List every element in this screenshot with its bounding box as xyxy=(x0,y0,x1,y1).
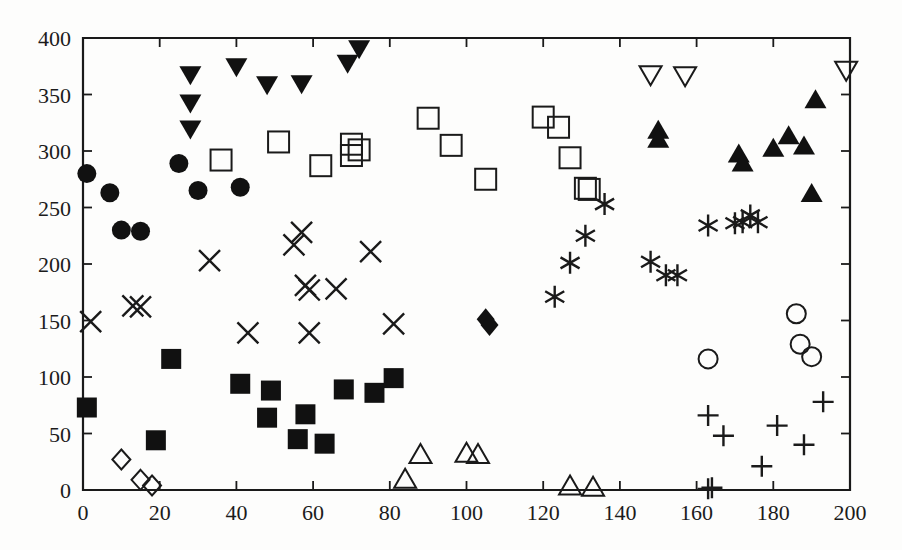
series-open-square xyxy=(211,107,600,200)
data-point-filled-square xyxy=(230,374,250,394)
data-point-asterisk xyxy=(545,286,564,308)
data-point-filled-square xyxy=(384,368,404,388)
data-point-open-down-triangle xyxy=(835,62,857,81)
y-axis-tick-label: 300 xyxy=(38,139,71,164)
data-markers-group xyxy=(77,40,857,499)
data-point-x xyxy=(291,222,312,243)
data-point-open-up-triangle xyxy=(582,477,604,496)
data-point-open-circle xyxy=(787,304,806,323)
data-point-open-square xyxy=(349,139,370,160)
series-open-circle xyxy=(699,304,822,368)
data-point-open-square xyxy=(418,108,439,129)
data-point-open-square xyxy=(268,131,289,152)
x-axis-tick-label: 180 xyxy=(757,500,790,525)
series-cross-x xyxy=(80,222,404,344)
data-point-filled-circle xyxy=(131,222,150,241)
series-asterisk xyxy=(545,193,767,308)
y-axis-tick-label: 50 xyxy=(49,422,71,447)
data-point-filled-square xyxy=(334,379,354,399)
data-point-filled-square xyxy=(295,404,315,424)
data-point-filled-down-triangle xyxy=(291,75,313,94)
data-point-open-up-triangle xyxy=(559,476,581,495)
data-point-asterisk xyxy=(668,264,687,286)
x-axis-tick-label: 200 xyxy=(834,500,867,525)
data-point-plus xyxy=(767,415,788,436)
y-axis-tick-label: 250 xyxy=(38,196,71,221)
data-point-x xyxy=(326,278,347,299)
plot-canvas: 0501001502002503003504000204060801001201… xyxy=(0,0,902,550)
series-filled-up-triangle xyxy=(647,89,826,202)
x-axis-tick-label: 160 xyxy=(680,500,713,525)
data-point-filled-up-triangle xyxy=(804,89,826,108)
data-point-filled-square xyxy=(161,349,181,369)
data-point-filled-up-triangle xyxy=(793,135,815,154)
data-point-filled-circle xyxy=(100,183,119,202)
data-point-plus xyxy=(751,456,772,477)
data-point-open-circle xyxy=(699,349,718,368)
y-axis-tick-label: 400 xyxy=(38,26,71,51)
data-point-plus xyxy=(793,434,814,455)
x-axis-tick-label: 80 xyxy=(379,500,401,525)
data-point-filled-square xyxy=(315,434,335,454)
data-point-filled-down-triangle xyxy=(337,55,359,74)
data-point-asterisk xyxy=(595,193,614,215)
data-point-plus xyxy=(813,391,834,412)
data-point-open-circle xyxy=(802,347,821,366)
x-axis-tick-label: 100 xyxy=(450,500,483,525)
data-point-open-up-triangle xyxy=(409,444,431,463)
data-point-open-circle xyxy=(791,335,810,354)
data-point-filled-square xyxy=(364,383,384,403)
data-point-filled-down-triangle xyxy=(179,66,201,85)
data-point-open-square xyxy=(560,147,581,168)
y-axis-tick-label: 100 xyxy=(38,365,71,390)
series-filled-down-triangle xyxy=(179,40,370,139)
data-point-x xyxy=(283,234,304,255)
series-open-down-triangle xyxy=(640,62,858,87)
data-point-open-up-triangle xyxy=(467,444,489,463)
data-point-plus xyxy=(713,425,734,446)
y-axis-tick-label: 150 xyxy=(38,309,71,334)
data-point-filled-up-triangle xyxy=(801,183,823,202)
tick-marks-group xyxy=(83,38,850,490)
data-point-filled-square xyxy=(77,398,97,418)
data-point-filled-square xyxy=(261,381,281,401)
data-point-x xyxy=(237,322,258,343)
data-point-open-square xyxy=(441,135,462,156)
data-point-open-down-triangle xyxy=(674,67,696,86)
data-point-filled-circle xyxy=(169,154,188,173)
plot-frame xyxy=(83,38,850,490)
data-point-x xyxy=(199,250,220,271)
data-point-x xyxy=(383,313,404,334)
data-point-x xyxy=(299,322,320,343)
data-point-open-square xyxy=(310,155,331,176)
data-point-asterisk xyxy=(699,215,718,237)
x-axis-tick-label: 0 xyxy=(78,500,89,525)
data-point-filled-square xyxy=(257,408,277,428)
data-point-filled-circle xyxy=(112,221,131,240)
series-filled-square xyxy=(77,349,404,454)
series-open-up-triangle xyxy=(394,443,604,496)
data-point-plus xyxy=(698,405,719,426)
data-point-filled-up-triangle xyxy=(778,125,800,144)
x-axis-tick-label: 140 xyxy=(603,500,636,525)
data-point-x xyxy=(360,241,381,262)
data-point-filled-circle xyxy=(77,164,96,183)
data-point-open-down-triangle xyxy=(640,66,662,85)
scatter-plot-figure: 0501001502002503003504000204060801001201… xyxy=(0,0,902,550)
y-axis-tick-label: 350 xyxy=(38,83,71,108)
data-point-filled-down-triangle xyxy=(225,58,247,77)
x-axis-tick-label: 120 xyxy=(527,500,560,525)
axes-group xyxy=(83,38,850,490)
data-point-open-square xyxy=(475,169,496,190)
x-axis-tick-label: 40 xyxy=(225,500,247,525)
data-point-filled-down-triangle xyxy=(179,94,201,113)
data-point-asterisk xyxy=(561,252,580,274)
series-open-diamond xyxy=(112,449,161,495)
data-point-filled-square xyxy=(288,429,308,449)
data-point-open-square xyxy=(211,150,232,171)
series-plus xyxy=(698,391,834,499)
series-filled-circle xyxy=(77,154,249,241)
x-axis-tick-label: 60 xyxy=(302,500,324,525)
series-filled-diamond xyxy=(477,308,499,336)
data-point-filled-circle xyxy=(231,178,250,197)
